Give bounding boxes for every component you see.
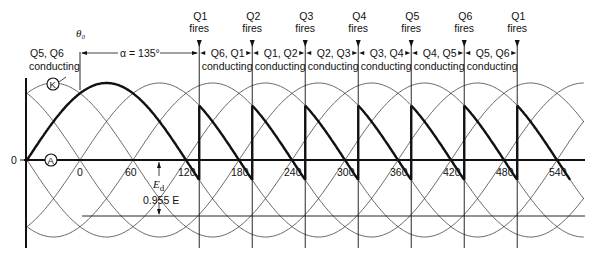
interval-arrowhead-left (200, 51, 205, 55)
ed-value-label: 0.955 E (143, 194, 179, 206)
conducting-pair-label: Q6, Q1 (211, 47, 245, 59)
fire-arrowhead (462, 40, 467, 47)
x-tick-label: 360 (390, 166, 408, 178)
rectifier-waveform-diagram: θ₀ Q5, Q6 conducting α = 135° K A 0 Ed 0… (0, 0, 589, 255)
conducting-pair-label: Q3, Q4 (370, 47, 404, 59)
initial-state-pair: Q5, Q6 (30, 47, 64, 59)
fire-q-label: Q4 (352, 10, 366, 22)
x-tick-label: 300 (337, 166, 355, 178)
initial-state-word: conducting (29, 60, 80, 72)
interval-arrowhead-right (352, 51, 357, 55)
fire-arrowhead (515, 40, 520, 47)
alpha-arrowhead-left (81, 51, 87, 55)
ed-arrowhead-down (157, 209, 161, 215)
x-tick-label: 120 (178, 166, 196, 178)
fire-arrowhead (356, 40, 361, 47)
alpha-arrowhead-right (192, 51, 198, 55)
interval-arrowhead-right (511, 51, 516, 55)
fire-arrowhead (303, 40, 308, 47)
theta0-label: θ₀ (76, 27, 85, 39)
fire-q-label: Q6 (458, 10, 472, 22)
interval-arrowhead-right (405, 51, 410, 55)
conducting-pair-label: Q1, Q2 (264, 47, 298, 59)
x-tick-label: 60 (125, 166, 137, 178)
conducting-pair-label: Q4, Q5 (423, 47, 457, 59)
x-tick-label: 480 (496, 166, 514, 178)
fire-word-label: fires (507, 22, 527, 34)
x-tick-label: 0 (77, 166, 83, 178)
fire-arrowhead (250, 40, 255, 47)
fire-q-label: Q2 (246, 10, 260, 22)
conducting-word-label: conducting (414, 60, 465, 72)
x-tick-label: 240 (284, 166, 302, 178)
axes (20, 52, 585, 248)
fire-word-label: fires (295, 22, 315, 34)
alpha-label: α = 135° (120, 47, 160, 59)
conducting-word-label: conducting (308, 60, 359, 72)
x-tick-label: 180 (231, 166, 249, 178)
fire-q-label: Q5 (405, 10, 419, 22)
conducting-pair-label: Q2, Q3 (317, 47, 351, 59)
fire-word-label: fires (348, 22, 368, 34)
x-tick-label: 420 (443, 166, 461, 178)
labels: θ₀ Q5, Q6 conducting α = 135° K A 0 Ed 0… (11, 27, 198, 215)
conducting-word-label: conducting (255, 60, 306, 72)
conducting-word-label: conducting (361, 60, 412, 72)
zero-label: 0 (11, 154, 17, 166)
fire-word-label: fires (454, 22, 474, 34)
interval-arrowhead-right (299, 51, 304, 55)
ed-arrowhead-up (157, 162, 161, 168)
fire-word-label: fires (242, 22, 262, 34)
interval-arrowhead-left (465, 51, 470, 55)
fire-q-label: Q1 (511, 10, 525, 22)
point-k-label: K (50, 79, 57, 90)
conducting-word-label: conducting (202, 60, 253, 72)
fire-q-label: Q1 (193, 10, 207, 22)
interval-arrowhead-left (412, 51, 417, 55)
interval-arrowhead-left (253, 51, 258, 55)
fire-q-label: Q3 (299, 10, 313, 22)
x-tick-label: 540 (549, 166, 567, 178)
interval-arrowhead-left (359, 51, 364, 55)
interval-arrowhead-right (458, 51, 463, 55)
fire-word-label: fires (189, 22, 209, 34)
fire-arrowhead (409, 40, 414, 47)
point-k-leader (59, 77, 66, 82)
fire-labels: Q1firesQ2firesQ3firesQ4firesQ5firesQ6fir… (189, 10, 527, 47)
conducting-labels: Q6, Q1conductingQ1, Q2conductingQ2, Q3co… (200, 47, 517, 72)
interval-arrowhead-left (306, 51, 311, 55)
fire-word-label: fires (401, 22, 421, 34)
point-a-label: A (48, 155, 55, 166)
fire-arrowhead (197, 40, 202, 47)
interval-arrowhead-right (246, 51, 251, 55)
conducting-word-label: conducting (467, 60, 518, 72)
conducting-pair-label: Q5, Q6 (476, 47, 510, 59)
